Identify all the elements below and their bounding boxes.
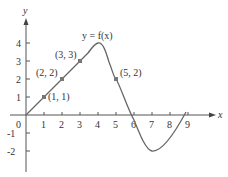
y-axis-label: y (22, 5, 28, 16)
x-tick-label: 5 (113, 119, 118, 130)
y-tick-label: 1 (16, 92, 21, 103)
y-tick-label: -1 (7, 128, 15, 139)
point-label: (2, 2) (36, 67, 58, 79)
y-tick-label: 2 (16, 74, 21, 85)
x-tick-label: 4 (95, 119, 100, 130)
x-tick-label: 8 (167, 119, 172, 130)
x-axis-label: x (217, 109, 223, 120)
chart-canvas: x y 0 1 2 3 4 5 6 7 8 9 -2 -1 1 2 3 4 (0, 0, 228, 177)
point-marker (60, 77, 64, 81)
x-tick-label: 9 (185, 119, 190, 130)
y-tick-label: -2 (7, 146, 15, 157)
x-tick-label: 7 (149, 119, 154, 130)
x-tick-label: 2 (59, 119, 64, 130)
y-axis-arrow-icon (24, 18, 29, 25)
point-marker (78, 59, 82, 63)
point-marker (42, 95, 46, 99)
origin-label: 0 (16, 119, 21, 130)
y-ticks (26, 43, 30, 151)
curve-title: y = f(x) (82, 30, 113, 42)
x-axis-arrow-icon (209, 113, 216, 118)
point-marker (114, 77, 118, 81)
y-tick-label: 3 (16, 56, 21, 67)
x-tick-label: 3 (77, 119, 82, 130)
point-label: (1, 1) (48, 91, 70, 103)
point-label: (3, 3) (55, 49, 77, 61)
x-tick-label: 1 (41, 119, 46, 130)
point-label: (5, 2) (120, 67, 142, 79)
y-tick-label: 4 (16, 38, 21, 49)
